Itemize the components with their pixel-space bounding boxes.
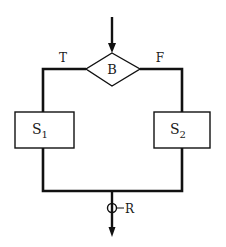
statement-box-s1: S1 (15, 112, 74, 148)
true-label: T (59, 51, 67, 65)
exit-arrow (109, 191, 116, 237)
s2-subscript: 2 (180, 129, 186, 140)
false-label: F (156, 51, 164, 65)
false-branch-path: F (140, 51, 182, 112)
true-branch-path: T (43, 51, 86, 112)
entry-arrow (108, 17, 116, 53)
decision-label: B (107, 62, 117, 77)
s2-name: S (170, 121, 180, 137)
merge-path (43, 148, 182, 191)
statement-box-s2: S2 (154, 112, 210, 148)
flowchart-canvas: B T F S1 S2 R (0, 0, 226, 247)
s1-subscript: 1 (42, 129, 48, 140)
merge-label: R (125, 202, 135, 216)
s1-name: S (32, 121, 42, 137)
decision-node: B (86, 53, 140, 86)
